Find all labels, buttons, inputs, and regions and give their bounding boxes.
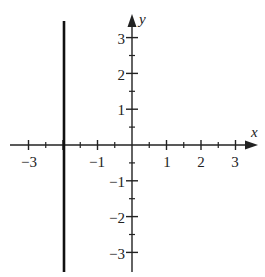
y-axis-label: y [137,11,146,27]
y-tick-label-2: 2 [118,67,126,83]
x-tick-label-3: 3 [231,154,239,170]
x-tick-label-neg3: −3 [21,154,37,170]
y-tick-label-3: 3 [118,31,126,47]
y-tick-label-neg1: −1 [109,174,125,190]
x-axis-label: x [250,124,258,140]
y-tick-label-1: 1 [118,102,126,118]
x-tick-label-2: 2 [197,154,205,170]
coordinate-plane: x y −3 −1 1 2 3 3 2 1 −1 −2 −3 [0,0,265,277]
y-tick-label-neg2: −2 [109,210,125,226]
y-axis-arrow-icon [128,14,137,27]
x-tick-label-neg1: −1 [89,154,105,170]
x-tick-label-1: 1 [163,154,171,170]
x-axis-arrow-icon [245,141,258,150]
y-tick-label-neg3: −3 [109,246,125,262]
